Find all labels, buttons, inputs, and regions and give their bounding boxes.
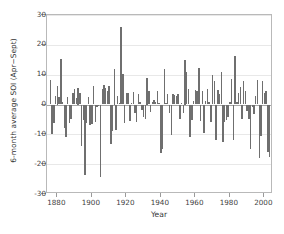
bar: [191, 105, 192, 121]
x-tick-label: 2000: [248, 198, 278, 207]
x-tick-label: 1880: [41, 198, 71, 207]
y-tick-label: 0: [6, 100, 46, 107]
x-tick: [263, 193, 264, 197]
x-tick-label: 1960: [179, 198, 209, 207]
bar: [231, 79, 232, 105]
bar: [188, 89, 189, 105]
bar: [148, 91, 149, 105]
bar: [250, 105, 251, 150]
bar: [210, 105, 211, 123]
x-tick: [56, 193, 57, 197]
bar: [253, 105, 254, 115]
y-tick-label: -20: [6, 160, 46, 167]
bar: [112, 105, 113, 132]
bar: [60, 59, 61, 105]
bar: [70, 105, 71, 120]
bar: [171, 105, 172, 135]
bar: [227, 105, 228, 118]
bar: [162, 105, 163, 149]
bar: [145, 105, 146, 119]
bar: [215, 105, 216, 140]
bar: [133, 92, 134, 105]
chart-figure: 6-month average SOI (Apr−Sept) 3020100-1…: [0, 0, 284, 234]
bar: [241, 105, 242, 120]
gridline: [47, 45, 271, 46]
x-tick-label: 1980: [214, 198, 244, 207]
bar: [234, 56, 235, 105]
bar: [245, 91, 246, 105]
bar: [240, 87, 241, 105]
bar: [177, 94, 178, 104]
y-tick-label: 20: [6, 40, 46, 47]
x-tick: [91, 193, 92, 197]
x-tick-label: 1940: [145, 198, 175, 207]
bar: [122, 74, 123, 104]
plot-area: [46, 14, 272, 193]
gridline: [47, 75, 271, 76]
gridline: [47, 164, 271, 165]
bar: [136, 105, 137, 122]
bar: [88, 97, 89, 105]
bar: [167, 94, 168, 105]
bar: [203, 105, 204, 133]
x-tick: [125, 193, 126, 197]
bar: [53, 105, 54, 124]
bar: [129, 105, 130, 121]
bar: [114, 69, 115, 105]
gridline: [47, 15, 271, 16]
bar: [86, 105, 87, 124]
bar: [91, 105, 92, 125]
y-tick-label: 10: [6, 70, 46, 77]
bar: [108, 86, 109, 105]
bar: [127, 93, 128, 104]
x-tick-label: 1920: [110, 198, 140, 207]
bar: [65, 105, 66, 138]
x-tick: [194, 193, 195, 197]
bar: [257, 80, 258, 105]
bar: [265, 91, 266, 104]
bar: [200, 105, 201, 122]
bar: [124, 105, 125, 124]
x-tick: [229, 193, 230, 197]
bar: [164, 69, 165, 105]
y-tick-label: 30: [6, 11, 46, 18]
bar: [233, 105, 234, 140]
bar: [79, 93, 80, 105]
bar: [100, 105, 101, 177]
bar: [183, 105, 184, 114]
bar: [269, 105, 270, 157]
y-tick-label: -30: [6, 190, 46, 197]
bar: [67, 97, 68, 104]
bar: [214, 81, 215, 105]
bar: [198, 68, 199, 105]
bar: [50, 80, 51, 104]
y-tick-label: -10: [6, 130, 46, 137]
bar: [115, 105, 116, 131]
x-axis-title: Year: [46, 210, 272, 219]
bar: [202, 91, 203, 105]
bar: [221, 72, 222, 105]
x-tick-label: 1900: [76, 198, 106, 207]
x-tick: [160, 193, 161, 197]
bar: [93, 86, 94, 104]
bar: [260, 105, 261, 136]
bar: [179, 105, 180, 120]
bar: [150, 105, 151, 112]
